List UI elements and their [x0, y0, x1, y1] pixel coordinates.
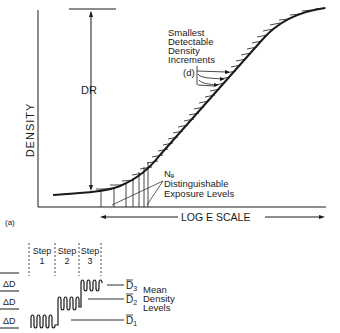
dr-label: DR	[81, 84, 97, 96]
d2-label: D2	[126, 294, 137, 306]
annotation-line-4: Increments	[168, 54, 215, 65]
ne-line-2: Exposure Levels	[164, 188, 234, 199]
step-3-number: 3	[87, 256, 92, 266]
density-diagram: DENSITY DR Smallest Detectable Density I…	[0, 0, 340, 333]
delta-d-label-mid: ΔD	[3, 297, 16, 307]
density-waveform	[31, 280, 102, 328]
arrow-icon	[220, 77, 225, 81]
step-2-label: Step	[58, 246, 77, 256]
delta-d-label-top: ΔD	[3, 279, 16, 289]
x-axis-label: LOG E SCALE	[181, 211, 250, 223]
step-2-number: 2	[64, 256, 69, 266]
d-increment-arrows	[197, 66, 227, 86]
mean-line-3: Levels	[143, 302, 171, 313]
d-label: (d)	[183, 67, 195, 78]
d1-label: D1	[126, 315, 137, 327]
right-arrow-icon	[319, 215, 325, 219]
level-labels: D3 D2 D1	[126, 280, 137, 327]
dr-arrow-down-icon	[89, 185, 93, 191]
dr-arrow-up-icon	[89, 11, 93, 17]
y-axis-label: DENSITY	[24, 103, 36, 158]
arrow-icon	[225, 70, 230, 74]
delta-d-label-bottom: ΔD	[3, 316, 16, 326]
step-1-number: 1	[39, 256, 44, 266]
left-arrow-icon	[100, 215, 106, 219]
d3-label: D3	[126, 280, 137, 292]
step-3-label: Step	[81, 246, 100, 256]
panel-label: (a)	[5, 218, 15, 227]
arrow-icon	[214, 83, 219, 87]
step-1-label: Step	[33, 246, 52, 256]
